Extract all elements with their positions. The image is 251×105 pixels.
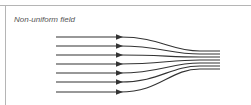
field-line	[56, 37, 220, 51]
arrowhead-icon	[116, 52, 123, 58]
arrowhead-icon	[116, 89, 123, 95]
field-lines	[56, 34, 220, 95]
figure-panel: Non-uniform field	[0, 0, 251, 105]
field-line	[56, 46, 220, 54]
arrowhead-icon	[116, 43, 123, 49]
arrowhead-icon	[116, 79, 123, 85]
field-line	[56, 55, 220, 57]
field-line	[56, 66, 220, 82]
arrowhead-icon	[116, 61, 123, 67]
field-lines-diagram	[0, 0, 251, 105]
arrowhead-icon	[116, 70, 123, 76]
arrowhead-icon	[116, 34, 123, 40]
